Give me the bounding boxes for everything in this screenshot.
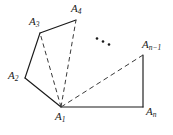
vertex-label-A4: A4 xyxy=(71,3,81,16)
vertex-label-An: An xyxy=(146,106,156,119)
vertex-label-A3-base: A xyxy=(29,15,36,27)
ellipsis-dot-1 xyxy=(96,37,99,40)
edge-A1-A2 xyxy=(25,78,61,107)
vertex-label-A2-sub: 2 xyxy=(15,74,19,83)
vertex-label-An-1: An−1 xyxy=(142,39,161,52)
vertex-label-An-1-base: A xyxy=(142,38,149,50)
solid-edges xyxy=(25,20,143,107)
vertex-label-An-sub: n xyxy=(153,110,157,119)
edge-A2-A3 xyxy=(25,33,40,78)
vertex-label-An-1-sub: n−1 xyxy=(149,43,162,52)
vertex-label-A1: A1 xyxy=(55,111,65,124)
vertex-label-A2-base: A xyxy=(8,69,15,81)
diagonal-A1-An-1 xyxy=(61,55,143,107)
vertex-label-A4-base: A xyxy=(71,2,78,14)
diagonal-A1-A3 xyxy=(40,33,61,107)
vertex-label-A1-base: A xyxy=(55,110,62,122)
vertex-label-A3-sub: 3 xyxy=(36,20,40,29)
ellipsis-dot-2 xyxy=(102,40,105,43)
vertex-label-An-base: A xyxy=(146,105,153,117)
diagonal-A1-A4 xyxy=(61,20,76,107)
edge-A3-A4 xyxy=(40,20,76,33)
vertex-label-A1-sub: 1 xyxy=(62,115,66,124)
ellipsis-dots xyxy=(96,37,111,46)
vertex-label-A4-sub: 4 xyxy=(78,7,82,16)
dashed-diagonals xyxy=(40,20,143,107)
vertex-label-A3: A3 xyxy=(29,16,39,29)
geometry-figure: A1 A2 A3 A4 An−1 An xyxy=(0,0,173,135)
vertex-label-A2: A2 xyxy=(8,70,18,83)
ellipsis-dot-3 xyxy=(108,43,111,46)
